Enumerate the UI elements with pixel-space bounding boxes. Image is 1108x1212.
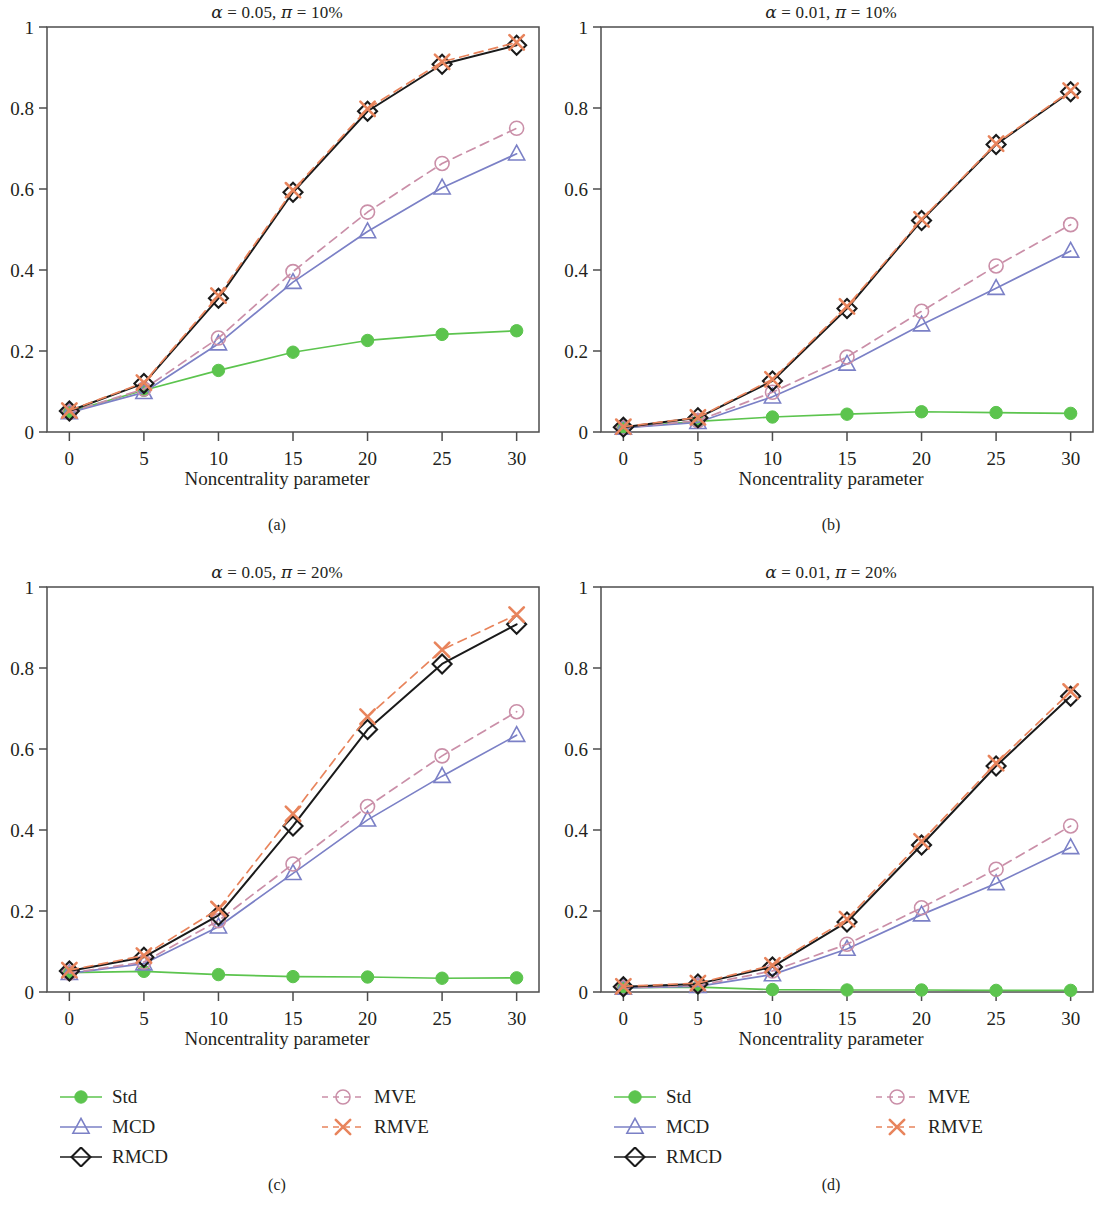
svg-text:10: 10 [763,1008,782,1028]
svg-text:10: 10 [209,1008,228,1028]
panel-c-title: α = 0.05, π = 20% [0,562,554,583]
svg-text:0.8: 0.8 [10,98,34,119]
legend-item-rmcd: RMCD [612,1142,722,1172]
svg-text:1: 1 [579,22,589,38]
legend-left: Std MCD RMCD MVE RMVE [0,1082,554,1172]
svg-text:0.2: 0.2 [10,901,34,922]
svg-text:5: 5 [693,1008,703,1028]
legend-left-column-1: Std MCD RMCD [58,1082,168,1172]
panel-d-plot: 00.20.40.60.81051015202530 [554,582,1108,1028]
svg-text:0.4: 0.4 [564,820,588,841]
svg-text:25: 25 [987,448,1006,468]
svg-text:15: 15 [284,1008,303,1028]
svg-text:10: 10 [209,448,228,468]
legend-label-mcd: MCD [666,1116,709,1138]
panel-d-caption: (d) [554,1176,1108,1194]
svg-text:0: 0 [65,1008,75,1028]
panel-c-caption: (c) [0,1176,554,1194]
panel-a-caption: (a) [0,516,554,534]
svg-text:0: 0 [65,448,75,468]
svg-text:0.4: 0.4 [564,260,588,281]
svg-text:15: 15 [838,448,857,468]
legend-item-mcd: MCD [612,1112,722,1142]
legend-label-rmcd: RMCD [666,1146,722,1168]
svg-text:25: 25 [987,1008,1006,1028]
panel-a-plot: 00.20.40.60.81051015202530 [0,22,554,468]
panel-d: α = 0.01, π = 20% 00.20.40.60.8105101520… [554,560,1108,1120]
svg-text:30: 30 [507,448,526,468]
panel-b-plot: 00.20.40.60.81051015202530 [554,22,1108,468]
legend-key-mcd [58,1117,104,1137]
svg-text:1: 1 [579,582,589,598]
legend-right-column-1: Std MCD RMCD [612,1082,722,1172]
legend-label-mcd: MCD [112,1116,155,1138]
legend-item-rmve: RMVE [874,1112,983,1142]
legend-key-mcd [612,1117,658,1137]
svg-text:0.6: 0.6 [564,179,588,200]
svg-text:30: 30 [1061,448,1080,468]
panel-b-title: α = 0.01, π = 10% [554,2,1108,23]
svg-text:0.6: 0.6 [10,739,34,760]
svg-text:0: 0 [619,1008,629,1028]
figure-four-power-plots: α = 0.05, π = 10% 00.20.40.60.8105101520… [0,0,1108,1212]
svg-text:5: 5 [139,448,149,468]
legend-left-column-2: MVE RMVE [320,1082,429,1142]
legend-label-std: Std [112,1086,137,1108]
panel-c: α = 0.05, π = 20% 00.20.40.60.8105101520… [0,560,554,1120]
legend-item-mve: MVE [320,1082,429,1112]
svg-text:25: 25 [433,1008,452,1028]
legend-label-mve: MVE [928,1086,970,1108]
svg-text:30: 30 [1061,1008,1080,1028]
panel-b-caption: (b) [554,516,1108,534]
legend-label-rmve: RMVE [374,1116,429,1138]
svg-text:0.6: 0.6 [10,179,34,200]
panel-d-xaxis-label: Noncentrality parameter [554,1028,1108,1050]
svg-text:0.4: 0.4 [10,260,34,281]
legend-key-rmve [320,1117,366,1137]
svg-text:20: 20 [912,1008,931,1028]
svg-text:0: 0 [579,982,589,1003]
svg-text:0: 0 [25,422,35,443]
svg-text:1: 1 [25,22,35,38]
panel-c-xaxis-label: Noncentrality parameter [0,1028,554,1050]
legend-right-column-2: MVE RMVE [874,1082,983,1142]
legend-key-rmve [874,1117,920,1137]
legend-label-rmve: RMVE [928,1116,983,1138]
svg-text:15: 15 [838,1008,857,1028]
svg-text:25: 25 [433,448,452,468]
legend-item-mcd: MCD [58,1112,168,1142]
legend-key-std [58,1087,104,1107]
svg-text:0.8: 0.8 [564,98,588,119]
svg-text:0.8: 0.8 [564,658,588,679]
legend-key-mve [320,1087,366,1107]
panel-b-xaxis-label: Noncentrality parameter [554,468,1108,490]
legend-item-rmcd: RMCD [58,1142,168,1172]
svg-text:5: 5 [693,448,703,468]
legend-item-std: Std [612,1082,722,1112]
svg-text:0: 0 [619,448,629,468]
svg-text:1: 1 [25,582,35,598]
svg-text:0.2: 0.2 [10,341,34,362]
legend-key-std [612,1087,658,1107]
svg-text:15: 15 [284,448,303,468]
svg-text:0.6: 0.6 [564,739,588,760]
panel-d-title: α = 0.01, π = 20% [554,562,1108,583]
svg-text:20: 20 [912,448,931,468]
panel-a-title: α = 0.05, π = 10% [0,2,554,23]
legend-key-mve [874,1087,920,1107]
legend-key-rmcd [58,1147,104,1167]
svg-text:0.4: 0.4 [10,820,34,841]
svg-text:0.8: 0.8 [10,658,34,679]
legend-item-mve: MVE [874,1082,983,1112]
legend-key-rmcd [612,1147,658,1167]
legend-label-mve: MVE [374,1086,416,1108]
legend-label-rmcd: RMCD [112,1146,168,1168]
panel-a-xaxis-label: Noncentrality parameter [0,468,554,490]
svg-text:30: 30 [507,1008,526,1028]
legend-item-rmve: RMVE [320,1112,429,1142]
panel-c-plot: 00.20.40.60.81051015202530 [0,582,554,1028]
svg-text:5: 5 [139,1008,149,1028]
legend-right: Std MCD RMCD MVE RMVE [554,1082,1108,1172]
svg-text:20: 20 [358,448,377,468]
panel-b: α = 0.01, π = 10% 00.20.40.60.8105101520… [554,0,1108,560]
